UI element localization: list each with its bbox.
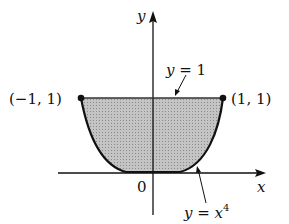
label-y-equals-x4: y = x4 [183,202,229,222]
point-label-neg1-1: (−1, 1) [9,90,62,108]
region-diagram: y x 0 (−1, 1) (1, 1) y = 1 y = x4 [0,0,289,224]
pointer-x4-arrowhead-icon [196,166,201,173]
y-axis-label: y [136,7,146,25]
pointer-y1-arrowhead-icon [175,89,180,96]
label-y-equals-1: y = 1 [165,61,206,79]
x-axis-label: x [257,178,266,196]
origin-label: 0 [137,178,147,196]
point-neg1-1 [78,95,85,102]
pointer-x4 [198,169,206,203]
point-1-1 [220,95,227,102]
point-label-1-1: (1, 1) [231,90,271,108]
shaded-region [81,98,223,172]
